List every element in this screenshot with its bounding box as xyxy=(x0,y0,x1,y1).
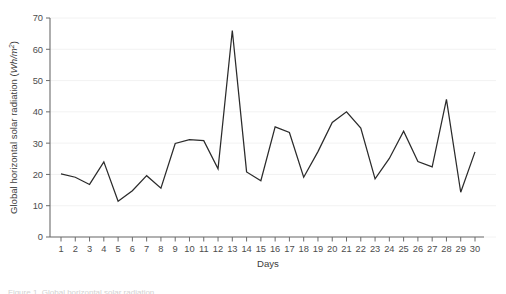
axes xyxy=(50,18,484,237)
y-tick-label: 40 xyxy=(33,107,43,117)
x-tick-label: 24 xyxy=(384,244,394,254)
x-tick-label: 20 xyxy=(327,244,337,254)
x-tick-label: 30 xyxy=(470,244,480,254)
x-tick-label: 11 xyxy=(199,244,209,254)
y-tick-label: 0 xyxy=(38,232,43,242)
x-tick-label: 2 xyxy=(73,244,78,254)
x-axis-ticks: 1234567891011121314151617181920212223242… xyxy=(58,237,480,254)
x-tick-label: 10 xyxy=(184,244,194,254)
x-tick-label: 12 xyxy=(213,244,223,254)
x-axis-title: Days xyxy=(257,258,279,269)
x-tick-label: 27 xyxy=(427,244,437,254)
y-tick-label: 60 xyxy=(33,45,43,55)
line-chart: 0102030405060701234567891011121314151617… xyxy=(0,0,506,294)
y-tick-label: 20 xyxy=(33,170,43,180)
x-tick-label: 22 xyxy=(356,244,366,254)
x-tick-label: 28 xyxy=(441,244,451,254)
x-tick-label: 23 xyxy=(370,244,380,254)
x-tick-label: 7 xyxy=(144,244,149,254)
x-tick-label: 4 xyxy=(101,244,106,254)
y-tick-label: 10 xyxy=(33,201,43,211)
x-tick-label: 14 xyxy=(241,244,251,254)
data-series-line xyxy=(61,31,475,202)
x-tick-label: 8 xyxy=(158,244,163,254)
y-tick-label: 70 xyxy=(33,13,43,23)
figure-container: 0102030405060701234567891011121314151617… xyxy=(0,0,506,294)
x-tick-label: 15 xyxy=(256,244,266,254)
x-tick-label: 5 xyxy=(116,244,121,254)
x-tick-label: 13 xyxy=(227,244,237,254)
x-tick-label: 18 xyxy=(299,244,309,254)
y-tick-label: 50 xyxy=(33,76,43,86)
x-tick-label: 9 xyxy=(173,244,178,254)
x-tick-label: 1 xyxy=(58,244,63,254)
y-axis-ticks: 010203040506070 xyxy=(33,13,50,242)
x-tick-label: 19 xyxy=(313,244,323,254)
y-axis-title: Global horizontal solar radiation (Wh/m2… xyxy=(8,41,20,214)
gridlines xyxy=(50,18,496,237)
x-tick-label: 26 xyxy=(413,244,423,254)
x-tick-label: 6 xyxy=(130,244,135,254)
x-tick-label: 21 xyxy=(341,244,351,254)
x-tick-label: 16 xyxy=(270,244,280,254)
figure-caption: Figure 1. Global horizontal solar radiat… xyxy=(8,288,478,294)
x-tick-label: 3 xyxy=(87,244,92,254)
x-tick-label: 17 xyxy=(284,244,294,254)
y-tick-label: 30 xyxy=(33,139,43,149)
x-tick-label: 25 xyxy=(398,244,408,254)
x-tick-label: 29 xyxy=(456,244,466,254)
